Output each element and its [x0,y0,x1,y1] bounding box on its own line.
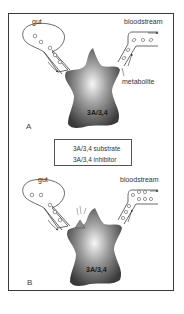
bloodstream-label-a: bloodstream [124,18,163,25]
legend: 3A/3,4 substrate 3A/3,4 inhibitor [54,139,132,166]
metabolite-icon [122,38,154,60]
binding-lines-icon [77,206,86,215]
panel-label-a: A [26,123,31,131]
legend-label-inhibitor: 3A/3,4 inhibitor [73,156,116,163]
enzyme-label-b: 3A/3,4 [86,266,107,273]
gut-compartment-a [23,23,68,72]
panel-label-b: B [27,279,32,287]
metabolite-label: metabolite [122,78,154,85]
gut-label-a: gut [32,18,42,25]
gut-label-b: gut [38,176,48,183]
enzyme-3a34-a [65,48,120,128]
legend-item-inhibitor: 3A/3,4 inhibitor [59,154,116,164]
legend-item-substrate: 3A/3,4 substrate [59,143,120,153]
substrate-icon [30,193,62,222]
bloodstream-label-b: bloodstream [120,176,159,183]
inhibitor-icon [75,220,85,228]
enzyme-3a34-b [67,208,122,286]
legend-label-substrate: 3A/3,4 substrate [73,145,120,152]
bloodstream-compartment-a [118,32,158,66]
enzyme-label-a: 3A/3,4 [87,109,108,116]
